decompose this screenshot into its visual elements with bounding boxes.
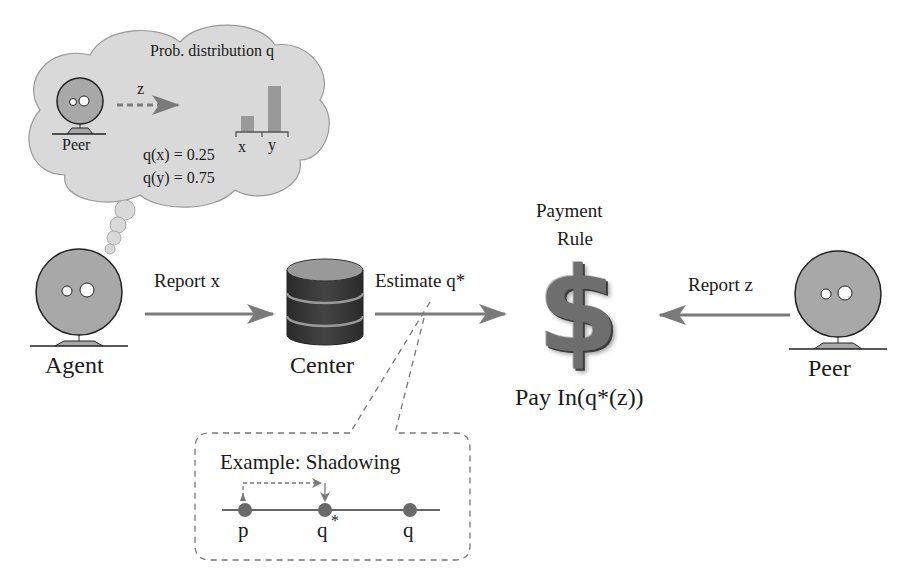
agent-icon (30, 249, 128, 346)
dollar-icon: $ (537, 252, 619, 370)
peer-label: Peer (808, 355, 851, 382)
point-p-label: p (238, 518, 249, 543)
estimate-label: Estimate q* (375, 270, 465, 292)
callout-line-right (395, 318, 424, 433)
payment-title-line1: Payment (536, 200, 603, 222)
formula-q-x: q(x) = 0.25 (143, 146, 215, 164)
pay-formula-label: Pay In(q*(z)) (515, 384, 644, 411)
center-label: Center (290, 352, 354, 379)
database-icon (287, 259, 363, 345)
point-q-label: q (403, 518, 414, 543)
bar-label-y: y (268, 136, 276, 154)
point-qstar-label: q (317, 518, 328, 543)
cloud-arrow-label: z (137, 80, 144, 98)
example-title: Example: Shadowing (220, 450, 400, 475)
cloud-peer-label: Peer (62, 136, 90, 154)
bar-label-x: x (238, 138, 246, 156)
report-z-label: Report z (688, 274, 753, 296)
report-x-label: Report x (154, 270, 220, 292)
peer-icon (789, 251, 887, 349)
formula-q-y: q(y) = 0.75 (143, 169, 215, 187)
diagram-canvas (0, 0, 905, 585)
agent-label: Agent (45, 352, 104, 379)
cloud-title: Prob. distribution q (150, 42, 274, 60)
point-qstar-superscript: * (331, 512, 339, 530)
